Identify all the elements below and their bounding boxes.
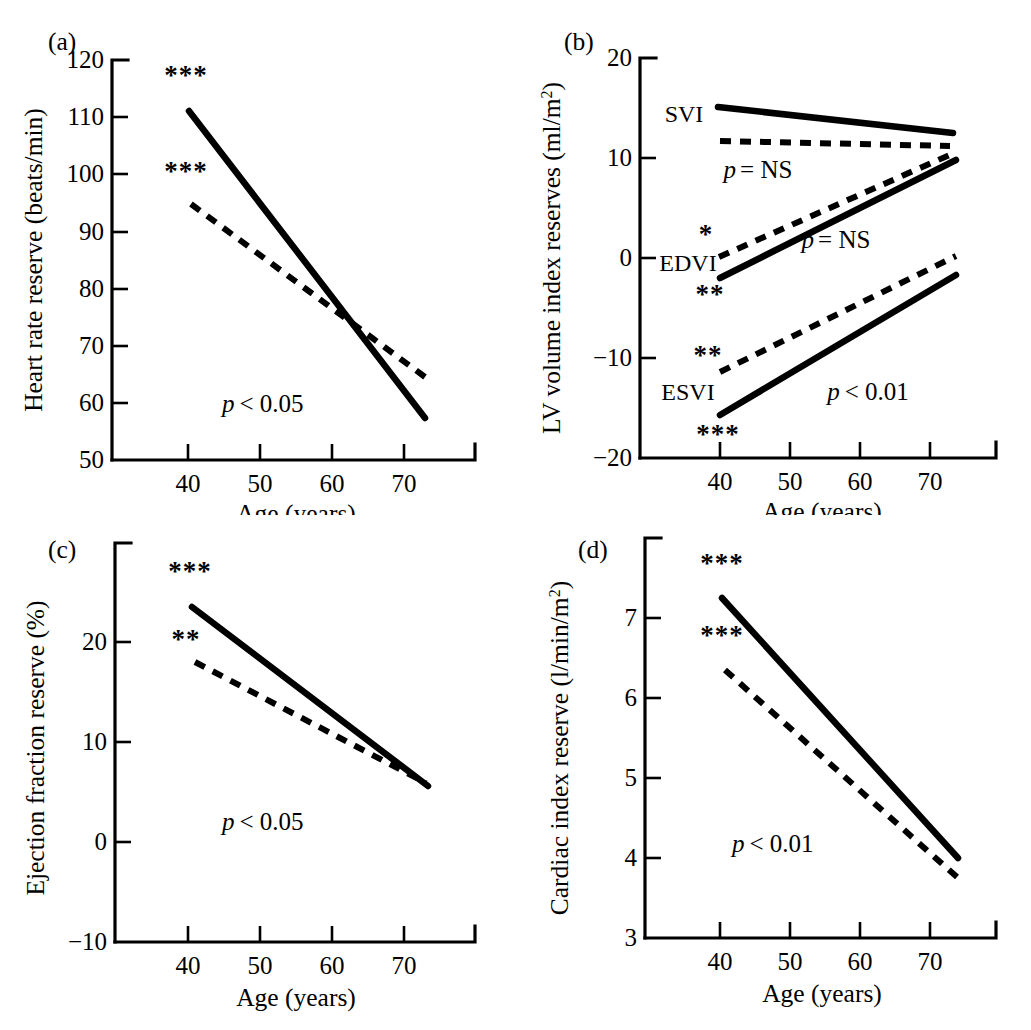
panel-d-xlabel-60: 60: [848, 948, 873, 975]
panel-b-plot: (b) −20 −10 0 10 20 40 50 60 70 Age (yea…: [516, 0, 1031, 515]
panel-b-y-axis-title: LV volume index reserves (ml/m2): [537, 82, 566, 434]
panel-a-y-axis: [112, 60, 128, 460]
panel-a-xlabel-50: 50: [248, 470, 273, 497]
figure-panel-grid: (a) 50 60 70 80 90 100 110 120: [0, 0, 1031, 1030]
panel-b-ylabel-minus20: −20: [593, 444, 632, 471]
panel-d: (d) 3 4 5 6 7 40 50 60 70 Age (years) Ca…: [516, 500, 1031, 1030]
panel-c: (c) −10 0 10 20 40 50 60 70 Age (years) …: [0, 500, 515, 1030]
panel-b-series-esvi-dashed: [720, 256, 956, 372]
panel-d-ylabel-6: 6: [625, 684, 638, 711]
panel-c-series-dashed: [195, 662, 426, 783]
panel-a-series-dashed: [191, 204, 425, 377]
panel-b-x-axis: [640, 442, 996, 458]
panel-c-y-axis-title: Ejection fraction reserve (%): [21, 600, 50, 895]
panel-b-pvalue-edvi: p= NS: [800, 226, 871, 253]
panel-b-ylabel-10: 10: [607, 144, 632, 171]
panel-b-xlabel-60: 60: [848, 468, 873, 495]
panel-a-pvalue: p< 0.05: [220, 390, 304, 417]
panel-a-stars-solid: ***: [164, 60, 208, 90]
panel-b-ylabel-0: 0: [620, 244, 633, 271]
panel-a-ylabel-120: 120: [67, 46, 105, 73]
panel-a-y-axis-title: Heart rate reserve (beats/min): [19, 108, 48, 412]
panel-b-xlabel-50: 50: [778, 468, 803, 495]
panel-c-ylabel-0: 0: [95, 828, 108, 855]
panel-a-series-solid: [189, 111, 425, 418]
panel-d-ylabel-4: 4: [625, 844, 638, 871]
panel-b-series-label-edvi: EDVI: [659, 250, 716, 276]
panel-c-xlabel-50: 50: [248, 952, 273, 979]
panel-a-ylabel-50: 50: [79, 446, 104, 473]
panel-d-pvalue: p< 0.01: [730, 830, 814, 857]
panel-b-pvalue-svi: p= NS: [722, 156, 793, 183]
panel-b-ylabel-20: 20: [607, 44, 632, 71]
panel-d-ylabel-7: 7: [625, 604, 638, 631]
panel-b-pvalue-esvi: p< 0.01: [825, 378, 909, 405]
panel-a-ylabel-100: 100: [67, 160, 105, 187]
panel-b-series-label-esvi: ESVI: [661, 379, 714, 405]
panel-d-xlabel-40: 40: [708, 948, 733, 975]
panel-a-stars-dashed: ***: [164, 156, 208, 186]
panel-b-xlabel-40: 40: [708, 468, 733, 495]
panel-c-stars-dashed: **: [172, 624, 201, 654]
panel-a-ylabel-90: 90: [79, 218, 104, 245]
panel-d-letter: (d): [578, 535, 608, 564]
panel-d-ylabel-3: 3: [625, 924, 638, 951]
panel-b-ylabel-minus10: −10: [593, 344, 632, 371]
panel-d-ylabel-5: 5: [625, 764, 638, 791]
panel-d-xlabel-70: 70: [918, 948, 943, 975]
panel-d-y-axis-title: Cardiac index reserve (l/min/m2): [545, 581, 574, 915]
panel-d-y-axis: [645, 538, 661, 938]
panel-c-ylabel-10: 10: [82, 728, 107, 755]
panel-d-stars-dashed: ***: [700, 620, 744, 650]
panel-a-xlabel-70: 70: [392, 470, 417, 497]
panel-c-stars-solid: ***: [168, 556, 212, 586]
panel-b-stars-edvi-dashed: *: [699, 219, 714, 249]
panel-d-x-axis: [645, 922, 996, 938]
panel-b-stars-esvi-solid: ***: [696, 419, 740, 449]
panel-a-ylabel-70: 70: [79, 332, 104, 359]
panel-a-plot: (a) 50 60 70 80 90 100 110 120: [0, 0, 515, 515]
panel-b-stars-edvi-solid: **: [696, 279, 725, 309]
panel-a: (a) 50 60 70 80 90 100 110 120: [0, 0, 515, 515]
panel-b-stars-esvi-dashed: **: [694, 340, 723, 370]
panel-c-ylabel-minus10: −10: [68, 928, 107, 955]
panel-c-x-axis: [115, 926, 475, 942]
panel-a-ylabel-60: 60: [79, 389, 104, 416]
panel-c-xlabel-70: 70: [392, 952, 417, 979]
panel-b-series-svi-dashed: [720, 141, 950, 146]
panel-b-letter: (b): [564, 27, 594, 56]
panel-a-x-axis: [112, 444, 475, 460]
panel-c-xlabel-40: 40: [176, 952, 201, 979]
panel-c-letter: (c): [48, 535, 76, 564]
panel-b: (b) −20 −10 0 10 20 40 50 60 70 Age (yea…: [516, 0, 1031, 515]
panel-a-xlabel-60: 60: [320, 470, 345, 497]
panel-b-series-label-svi: SVI: [665, 101, 704, 127]
panel-c-series-solid: [192, 607, 428, 786]
panel-a-xlabel-40: 40: [176, 470, 201, 497]
panel-d-plot: (d) 3 4 5 6 7 40 50 60 70 Age (years) Ca…: [516, 500, 1031, 1030]
panel-c-pvalue: p< 0.05: [220, 808, 304, 835]
panel-c-xlabel-60: 60: [320, 952, 345, 979]
panel-c-plot: (c) −10 0 10 20 40 50 60 70 Age (years) …: [0, 500, 515, 1030]
panel-c-ylabel-20: 20: [82, 628, 107, 655]
panel-c-x-axis-title: Age (years): [236, 983, 356, 1012]
panel-d-series-solid: [722, 598, 958, 858]
panel-d-x-axis-title: Age (years): [762, 979, 882, 1008]
panel-a-ylabel-80: 80: [79, 275, 104, 302]
panel-d-xlabel-50: 50: [778, 948, 803, 975]
panel-b-series-svi-solid: [718, 107, 953, 133]
panel-a-ylabel-110: 110: [67, 103, 104, 130]
panel-b-xlabel-70: 70: [918, 468, 943, 495]
panel-d-stars-solid: ***: [700, 548, 744, 578]
